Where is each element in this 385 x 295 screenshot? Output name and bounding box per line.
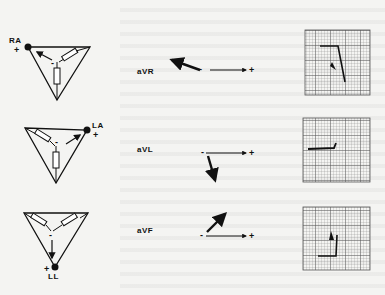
avr-lead-label: aVR xyxy=(137,67,154,76)
ll-polarity: + xyxy=(44,264,50,274)
avl-axis-neg: - xyxy=(201,147,205,157)
avf-triangle-diagram: - xyxy=(24,213,88,271)
augmented-leads-diagram: - - - xyxy=(0,0,385,295)
avf-ecg-strip xyxy=(303,207,370,270)
avr-axis-pos: + xyxy=(249,65,255,75)
ra-label: RA xyxy=(9,36,22,45)
avl-triangle-diagram: - xyxy=(25,127,91,184)
avf-vector xyxy=(206,214,246,236)
ra-polarity: + xyxy=(14,45,20,55)
avl-lead-label: aVL xyxy=(137,145,153,154)
avf-axis-neg: - xyxy=(200,230,204,240)
avr-ecg-strip xyxy=(305,30,370,95)
avl-axis-pos: + xyxy=(249,148,255,158)
avf-axis-pos: + xyxy=(249,231,255,241)
avf-lead-label: aVF xyxy=(137,226,153,235)
la-polarity: + xyxy=(93,130,99,140)
ra-electrode-dot xyxy=(25,44,32,51)
avl-ecg-strip xyxy=(303,118,370,182)
avl-vector xyxy=(206,153,246,180)
la-label: LA xyxy=(92,121,104,130)
la-electrode-dot xyxy=(84,127,91,134)
avr-triangle-diagram: - xyxy=(25,44,91,101)
svg-text:-: - xyxy=(55,137,58,147)
avr-vector xyxy=(172,60,246,70)
avr-axis-neg: - xyxy=(199,64,203,74)
svg-text:-: - xyxy=(51,58,54,68)
svg-text:-: - xyxy=(49,230,52,240)
ll-electrode-dot xyxy=(52,264,59,271)
